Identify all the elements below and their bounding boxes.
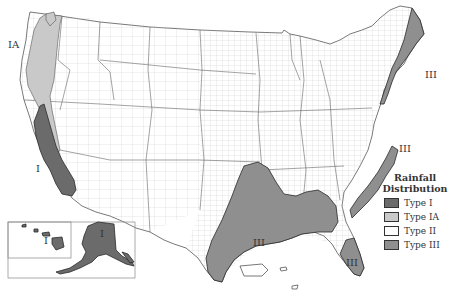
small-islands (292, 285, 298, 289)
legend-item-type-i: Type I (381, 197, 449, 208)
legend: Rainfall Distribution Type I Type IA Typ… (381, 172, 449, 250)
legend-title-line2: Distribution (381, 183, 449, 194)
type-i-swatch-icon (384, 198, 399, 208)
label-iii-florida: III (346, 257, 358, 268)
label-iii-northeast: III (425, 69, 437, 80)
legend-title-line1: Rainfall (381, 172, 449, 183)
legend-item-type-ia: Type IA (381, 211, 449, 222)
legend-label: Type III (404, 240, 440, 250)
label-i-hawaii: I (44, 235, 48, 246)
label-iii-atlantic: III (399, 143, 411, 154)
legend-label: Type I (404, 198, 433, 208)
label-i-alaska: I (100, 228, 104, 239)
legend-label: Type II (404, 226, 436, 236)
type-iii-swatch-icon (384, 240, 399, 250)
type-ia-swatch-icon (384, 212, 399, 222)
label-iii-gulf: III (253, 237, 265, 248)
puerto-rico (240, 264, 268, 276)
type-ii-swatch-icon (384, 226, 399, 236)
legend-item-type-iii: Type III (381, 239, 449, 250)
legend-label: Type IA (404, 212, 439, 222)
label-ia-northwest: IA (8, 39, 20, 50)
virgin-islands (280, 267, 287, 271)
rainfall-distribution-map: IA I III III III III I I (0, 0, 449, 296)
label-i-california: I (36, 163, 40, 174)
legend-item-type-ii: Type II (381, 225, 449, 236)
